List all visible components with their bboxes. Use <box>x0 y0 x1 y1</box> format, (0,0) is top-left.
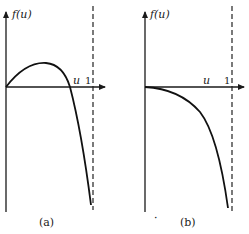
y-axis-label: f(u) <box>149 8 170 21</box>
x-axis-label: u <box>203 74 210 87</box>
function-curve <box>145 87 228 208</box>
panel-b: f(u) u 1 (b) <box>145 6 244 229</box>
panel-caption: (b) <box>180 216 196 229</box>
asymptote-label: 1 <box>224 75 230 86</box>
x-axis-label: u <box>73 74 80 87</box>
panel-a: f(u) u 1 (a) <box>6 6 105 229</box>
stray-mark: · <box>154 212 158 225</box>
y-axis-label: f(u) <box>11 8 32 21</box>
figure-canvas: f(u) u 1 (a) f(u) u 1 (b) · <box>0 0 249 234</box>
panel-caption: (a) <box>39 216 54 229</box>
asymptote-label: 1 <box>85 75 91 86</box>
